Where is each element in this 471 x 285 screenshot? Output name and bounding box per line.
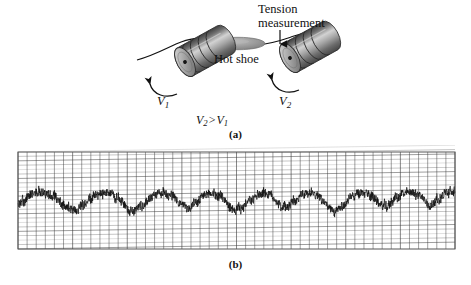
velocity-v1-label: V1 <box>157 94 169 110</box>
inequality-left-subscript: 2 <box>203 118 207 128</box>
v1-symbol: V <box>157 94 165 108</box>
tension-measurement-line1: Tension <box>258 2 297 16</box>
panel-a-caption: (a) <box>0 128 471 140</box>
inequality-right-subscript: 1 <box>224 118 228 128</box>
roller-cylinder-left <box>170 22 240 80</box>
v1-subscript: 1 <box>165 100 170 110</box>
inequality-right-symbol: V <box>216 113 223 127</box>
v2-subscript: 2 <box>287 100 292 110</box>
panel-b-caption: (b) <box>0 258 471 270</box>
counterclockwise-rotation-arrow-right <box>272 80 299 92</box>
chart-grid <box>18 145 455 249</box>
panel-b-chart <box>0 145 471 260</box>
tension-measurement-line2: measurement <box>258 16 325 30</box>
v2-symbol: V <box>279 94 287 108</box>
tension-measurement-label: Tension measurement <box>258 2 325 30</box>
hot-shoe-label: Hot shoe <box>214 52 259 67</box>
velocity-v2-label: V2 <box>279 94 291 110</box>
velocity-inequality-label: V2>V1 <box>196 113 228 128</box>
figure-container: Tension measurement Hot shoe V1 V2 V2>V1… <box>0 0 471 285</box>
